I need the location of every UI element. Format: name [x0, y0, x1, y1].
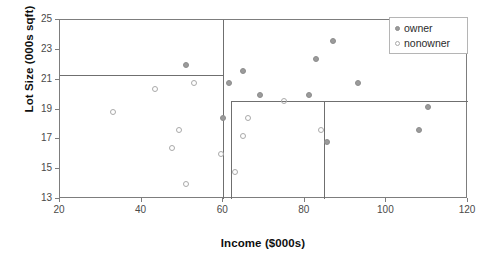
x-tick — [467, 198, 468, 202]
data-point-nonowner — [110, 109, 116, 115]
legend-label-owner: owner — [404, 23, 433, 34]
y-tick-label: 17 — [26, 133, 52, 143]
partition-line — [231, 101, 468, 102]
data-point-nonowner — [176, 127, 182, 133]
data-point-owner — [306, 92, 312, 98]
filled-circle-icon — [395, 26, 400, 31]
y-tick-label: 19 — [26, 104, 52, 114]
data-point-owner — [257, 92, 263, 98]
x-tick-label: 120 — [447, 205, 484, 215]
legend-label-nonowner: nonowner — [404, 38, 450, 49]
legend: owner nonowner — [389, 17, 468, 54]
data-point-owner — [330, 38, 336, 44]
y-tick-label: 23 — [26, 44, 52, 54]
y-tick-label: 15 — [26, 163, 52, 173]
data-point-owner — [183, 62, 189, 68]
scatter-plot-figure: Lot Size (000s sqft) Income ($000s) 1315… — [0, 0, 484, 263]
x-tick — [141, 198, 142, 202]
x-tick-label: 40 — [121, 205, 161, 215]
data-point-nonowner — [245, 115, 251, 121]
data-point-owner — [226, 80, 232, 86]
y-tick-label: 13 — [26, 193, 52, 203]
data-point-nonowner — [281, 98, 287, 104]
legend-item-owner: owner — [395, 21, 433, 35]
partition-line — [324, 101, 325, 199]
data-point-nonowner — [240, 133, 246, 139]
data-point-nonowner — [169, 145, 175, 151]
data-point-owner — [220, 115, 226, 121]
x-tick — [304, 198, 305, 202]
data-point-nonowner — [183, 181, 189, 187]
legend-item-nonowner: nonowner — [395, 36, 450, 50]
data-point-owner — [425, 104, 431, 110]
data-point-owner — [416, 127, 422, 133]
data-point-nonowner — [152, 86, 158, 92]
y-tick-label: 25 — [26, 14, 52, 24]
data-point-nonowner — [218, 151, 224, 157]
partition-line — [60, 75, 223, 76]
y-tick-label: 21 — [26, 74, 52, 84]
data-point-nonowner — [191, 80, 197, 86]
open-circle-icon — [395, 41, 400, 46]
x-tick — [59, 198, 60, 202]
data-point-owner — [240, 68, 246, 74]
partition-line — [231, 101, 232, 199]
x-axis-title: Income ($000s) — [59, 237, 467, 249]
data-point-owner — [324, 139, 330, 145]
data-point-owner — [355, 80, 361, 86]
data-point-owner — [313, 56, 319, 62]
partition-line — [223, 20, 224, 199]
x-tick-label: 100 — [365, 205, 405, 215]
data-point-nonowner — [232, 169, 238, 175]
x-tick-label: 20 — [39, 205, 79, 215]
x-tick-label: 60 — [202, 205, 242, 215]
x-tick — [385, 198, 386, 202]
x-tick-label: 80 — [284, 205, 324, 215]
data-point-nonowner — [318, 127, 324, 133]
